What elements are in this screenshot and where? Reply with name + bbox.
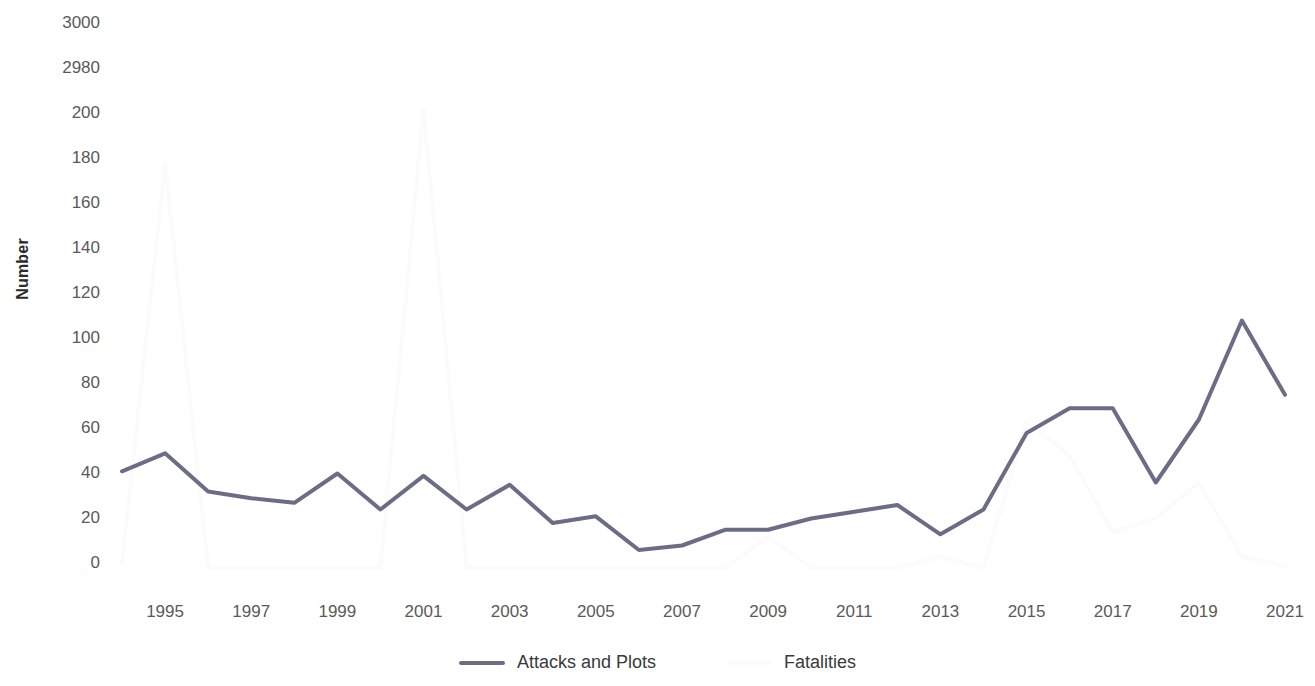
plot-area [0,0,1315,600]
x-axis-tick-label: 2021 [1266,602,1304,622]
x-axis-tick-label: 2013 [921,602,959,622]
x-axis-tick-labels: 1995199719992001200320052007200920112013… [0,592,1315,628]
x-axis-tick-label: 2009 [749,602,787,622]
series-line [122,321,1285,551]
x-axis-tick-label: 1995 [146,602,184,622]
x-axis-tick-label: 2007 [663,602,701,622]
legend-line-swatch [459,661,505,665]
x-axis-tick-label: 2019 [1180,602,1218,622]
x-axis-tick-label: 2005 [577,602,615,622]
x-axis-tick-label: 1997 [232,602,270,622]
legend-line-swatch [726,661,772,665]
x-axis-tick-label: 1999 [318,602,356,622]
x-axis-tick-label: 2011 [836,602,873,622]
line-chart: Number 300029802001801601401201008060402… [0,0,1315,686]
x-axis-tick-label: 2003 [491,602,529,622]
x-axis-tick-label: 2017 [1094,602,1132,622]
legend-label: Attacks and Plots [517,652,656,673]
x-axis-tick-label: 2015 [1008,602,1046,622]
legend-item[interactable]: Fatalities [726,652,856,673]
legend-item[interactable]: Attacks and Plots [459,652,656,673]
x-axis-tick-label: 2001 [405,602,443,622]
legend-label: Fatalities [784,652,856,673]
chart-legend: Attacks and PlotsFatalities [0,652,1315,673]
